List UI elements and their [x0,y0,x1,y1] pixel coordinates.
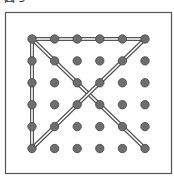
peg-dot [141,57,149,65]
peg-dot [73,122,81,130]
peg-dot [96,79,104,87]
peg-dot [28,57,36,65]
peg-dot [96,57,104,65]
peg-dot [73,79,81,87]
peg-dot [141,101,149,109]
peg-dot [118,122,126,130]
peg-dot [73,101,81,109]
peg-dot [28,79,36,87]
peg-dot [118,101,126,109]
peg-dot [28,35,36,43]
peg-dot [50,122,58,130]
peg-dot [141,122,149,130]
peg-dot [141,144,149,152]
peg-dot [118,35,126,43]
peg-dot [96,101,104,109]
peg-dot [118,57,126,65]
peg-dot [28,122,36,130]
peg-dot [118,79,126,87]
peg-dot [141,79,149,87]
peg-dot [73,144,81,152]
geoboard-diagram [0,0,174,176]
peg-dot [50,144,58,152]
peg-dot [28,144,36,152]
peg-dot [96,122,104,130]
peg-dot [50,35,58,43]
peg-dot [73,57,81,65]
peg-dot [96,144,104,152]
peg-dot [28,101,36,109]
peg-dot [96,35,104,43]
peg-dot [118,144,126,152]
rubber-band-lines [32,39,145,149]
peg-dot [73,35,81,43]
peg-dot [50,79,58,87]
peg-dot [50,101,58,109]
peg-dot [50,57,58,65]
peg-dot [141,35,149,43]
